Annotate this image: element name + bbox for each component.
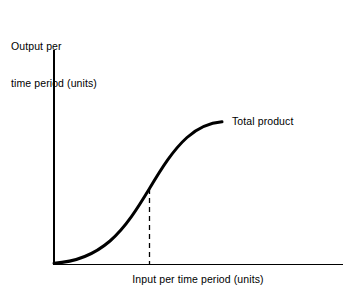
y-axis-label: Output per time period (units): [11, 16, 97, 114]
figure-total-product-curve: Output per time period (units) Input per…: [0, 0, 343, 294]
y-axis-label-line-1: Output per: [11, 40, 97, 52]
y-axis-label-line-2: time period (units): [11, 77, 97, 89]
x-axis-label: Input per time period (units): [53, 273, 343, 285]
series-label-total-product: Total product: [232, 115, 293, 127]
total-product-curve: [54, 122, 222, 263]
